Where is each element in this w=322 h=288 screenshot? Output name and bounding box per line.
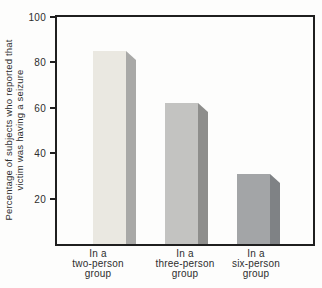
- y-axis-title-line1: Percentage of subjects who reported that: [3, 39, 14, 220]
- y-tick-mark: [50, 152, 57, 154]
- y-tick-label: 60: [34, 102, 46, 113]
- bar-front-face: [93, 51, 126, 244]
- y-tick-mark: [50, 61, 57, 63]
- bar-front-face: [165, 103, 198, 244]
- x-category-label: In asix-persongroup: [232, 249, 280, 278]
- y-tick-mark: [50, 16, 57, 18]
- x-category-label-line: group: [232, 269, 280, 279]
- bar-side-face: [126, 51, 136, 244]
- y-tick-label: 20: [34, 193, 46, 204]
- y-tick-label: 40: [34, 148, 46, 159]
- x-category-label: In atwo-persongroup: [72, 249, 123, 278]
- y-axis-title-line2: victim was having a seizure: [14, 39, 25, 220]
- plot-area: 10080604020: [55, 15, 315, 246]
- bar-front-face: [237, 174, 270, 244]
- x-axis-labels: In atwo-persongroupIn athree-persongroup…: [57, 249, 313, 283]
- x-category-label-line: group: [72, 269, 123, 279]
- x-category-label: In athree-persongroup: [155, 249, 214, 278]
- y-tick-label: 100: [28, 12, 46, 23]
- bar-side-face: [198, 103, 208, 244]
- y-tick-label: 80: [34, 57, 46, 68]
- x-category-label-line: group: [155, 269, 214, 279]
- y-axis-title: Percentage of subjects who reported that…: [3, 39, 25, 220]
- bar-chart-figure: Percentage of subjects who reported that…: [0, 0, 322, 288]
- y-tick-mark: [50, 198, 57, 200]
- bar-side-face: [270, 174, 280, 244]
- y-tick-mark: [50, 107, 57, 109]
